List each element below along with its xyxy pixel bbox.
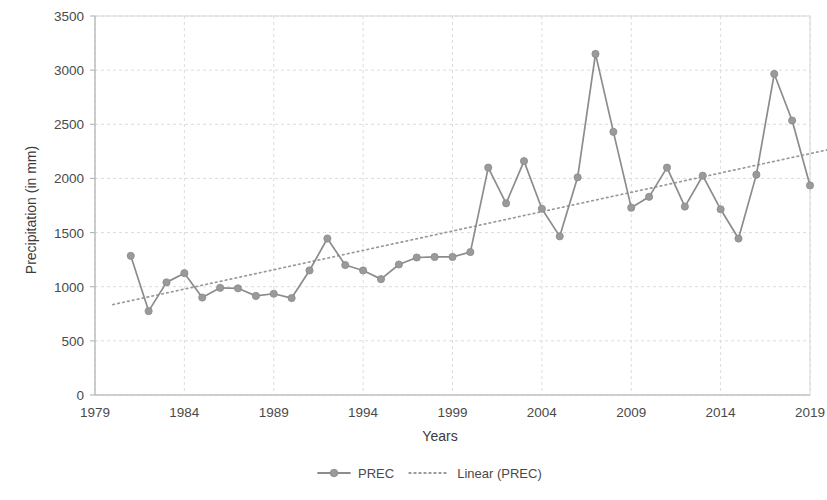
y-axis-tick-label: 1000 [54, 280, 84, 295]
data-point-marker [628, 204, 635, 211]
data-point-marker [699, 172, 706, 179]
y-axis-tick-label: 0 [76, 388, 84, 403]
data-point-marker [574, 174, 581, 181]
data-point-marker [252, 292, 259, 299]
data-point-marker [663, 164, 670, 171]
data-point-marker [449, 253, 456, 260]
y-axis-tick-label: 2500 [54, 117, 84, 132]
y-axis-title: Precipitation (in mm) [23, 146, 39, 274]
y-axis-tick-label: 3500 [54, 9, 84, 24]
x-axis-tick-label: 1994 [348, 405, 379, 420]
y-axis-tick-label: 2000 [54, 171, 84, 186]
data-point-marker [520, 158, 527, 165]
data-point-marker [324, 235, 331, 242]
x-axis-tick-label: 2019 [795, 405, 825, 420]
legend-label: PREC [358, 466, 394, 481]
x-axis-title: Years [422, 428, 457, 444]
data-point-marker [288, 294, 295, 301]
data-point-marker [217, 284, 224, 291]
y-axis-tick-label: 3000 [54, 63, 84, 78]
data-point-marker [556, 233, 563, 240]
data-point-marker [360, 267, 367, 274]
x-axis-tick-label: 1989 [259, 405, 289, 420]
x-axis-tick-label: 2004 [527, 405, 558, 420]
x-axis-tick-label: 1984 [169, 405, 200, 420]
data-point-marker [270, 290, 277, 297]
data-point-marker [753, 171, 760, 178]
data-point-marker [431, 253, 438, 260]
y-axis-tick-label: 500 [61, 334, 84, 349]
data-point-marker [806, 182, 813, 189]
x-axis-tick-label: 1979 [80, 405, 110, 420]
data-point-marker [234, 285, 241, 292]
data-point-marker [771, 70, 778, 77]
data-point-marker [163, 279, 170, 286]
chart-canvas: 0500100015002000250030003500 19791984198… [0, 0, 827, 500]
data-point-marker [127, 252, 134, 259]
data-point-marker [342, 261, 349, 268]
data-point-marker [735, 235, 742, 242]
data-point-marker [377, 276, 384, 283]
data-point-marker [413, 254, 420, 261]
data-point-marker [789, 117, 796, 124]
plot-background [0, 0, 827, 500]
precipitation-line-chart: 0500100015002000250030003500 19791984198… [0, 0, 827, 500]
x-axis-tick-label: 2009 [616, 405, 646, 420]
data-point-marker [199, 294, 206, 301]
data-point-marker [395, 261, 402, 268]
data-point-marker [646, 193, 653, 200]
legend-marker-icon [330, 469, 338, 477]
data-point-marker [610, 128, 617, 135]
data-point-marker [145, 307, 152, 314]
legend-label: Linear (PREC) [457, 466, 542, 481]
data-point-marker [485, 164, 492, 171]
data-point-marker [503, 200, 510, 207]
data-point-marker [306, 267, 313, 274]
data-point-marker [717, 206, 724, 213]
data-point-marker [538, 205, 545, 212]
data-point-marker [181, 270, 188, 277]
data-point-marker [592, 50, 599, 57]
x-axis-tick-labels: 197919841989199419992004200920142019 [80, 405, 825, 420]
x-axis-tick-label: 2014 [706, 405, 737, 420]
data-point-marker [681, 203, 688, 210]
x-axis-tick-label: 1999 [437, 405, 467, 420]
data-point-marker [467, 248, 474, 255]
y-axis-tick-label: 1500 [54, 226, 84, 241]
